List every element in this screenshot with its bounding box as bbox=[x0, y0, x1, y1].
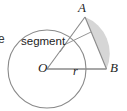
label-segment: segment bbox=[21, 36, 65, 48]
label-point-b: B bbox=[110, 61, 118, 74]
segment-leader-line bbox=[64, 32, 91, 45]
diagram-canvas bbox=[0, 0, 127, 111]
label-center-o: O bbox=[38, 61, 47, 74]
circle-segment-diagram: A O r B segment e bbox=[0, 0, 127, 111]
label-radius-r: r bbox=[73, 65, 78, 77]
label-point-a: A bbox=[78, 1, 86, 14]
clipped-left-text: e bbox=[0, 33, 5, 45]
